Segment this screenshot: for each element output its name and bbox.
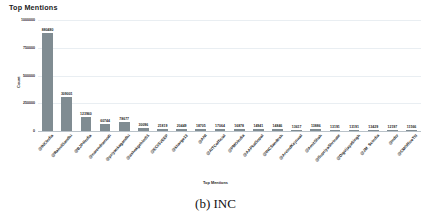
chart-title: Top Mentions	[9, 3, 58, 12]
x-tick-label: @PMOIndia	[227, 133, 246, 153]
bar[interactable]	[291, 130, 302, 132]
y-tick-label: 500000	[23, 74, 35, 78]
x-axis-line	[38, 131, 421, 132]
y-tick-label: 1000000	[21, 18, 35, 22]
bar-slot: 60744	[95, 20, 114, 131]
bar[interactable]	[406, 130, 417, 131]
x-tick-label: @ANI	[196, 133, 207, 145]
bar-value-label: 17064	[215, 124, 225, 128]
bar[interactable]	[61, 97, 72, 131]
bar-slot: 13191	[325, 20, 344, 131]
x-tick-label: @kharge13	[170, 133, 188, 153]
figure-panel: Top Mentions Count 025000050000075000010…	[0, 0, 431, 221]
bar-slot: 17064	[210, 20, 229, 131]
bar-value-label: 13191	[349, 125, 359, 129]
bar-value-label: 12197	[388, 125, 398, 129]
bar-slot: 13191	[345, 20, 364, 131]
bar[interactable]	[138, 128, 149, 131]
bar-slot: 14846	[268, 20, 287, 131]
bar[interactable]	[253, 129, 264, 131]
bar-slot: 13617	[287, 20, 306, 131]
bar[interactable]	[81, 117, 92, 131]
bar[interactable]	[310, 129, 321, 131]
bar-slot: 309001	[57, 20, 76, 131]
plot-area: 02500005000007500001000000 8804803090011…	[38, 20, 421, 132]
bar-slot: 880480	[38, 20, 57, 131]
bar-value-label: 21819	[158, 124, 168, 128]
bar-value-label: 30096	[138, 123, 148, 127]
x-tick-label: @JM_Scindia	[358, 133, 379, 156]
bar-slot: 13429	[364, 20, 383, 131]
bar-slot: 21819	[153, 20, 172, 131]
bar-value-label: 11566	[407, 125, 417, 129]
y-axis-label: Count	[16, 76, 21, 88]
bar[interactable]	[100, 124, 111, 131]
bar-value-label: 20449	[177, 124, 187, 128]
x-tick-label: @INCIndia	[37, 133, 55, 152]
bar[interactable]	[119, 122, 130, 131]
bar[interactable]	[176, 129, 187, 131]
bar-slot: 123960	[76, 20, 95, 131]
bar-value-label: 16878	[234, 124, 244, 128]
bar[interactable]	[387, 130, 398, 131]
bar-value-label: 123960	[80, 112, 92, 116]
bar[interactable]	[234, 129, 245, 131]
bar-value-label: 880480	[42, 28, 54, 32]
x-tick-label: @CMOfficeTN	[396, 133, 418, 157]
bar-value-label: 13617	[292, 125, 302, 129]
bar[interactable]	[272, 129, 283, 131]
bar[interactable]	[349, 130, 360, 131]
x-tick-label: @AITCofficial	[205, 133, 227, 156]
bar-slot: 14941	[249, 20, 268, 131]
bar[interactable]	[42, 33, 53, 131]
bar[interactable]	[330, 130, 341, 131]
bar-slot: 30096	[134, 20, 153, 131]
bar-series: 8804803090011239606074478677300962181920…	[38, 20, 421, 131]
bar-slot: 18705	[191, 20, 210, 131]
y-tick-label: 0	[33, 129, 35, 133]
bar-slot: 12197	[383, 20, 402, 131]
x-tick-label: @AmitShah	[303, 133, 322, 154]
bar-slot: 16878	[230, 20, 249, 131]
bar-slot: 11566	[402, 20, 421, 131]
bar-slot: 20449	[172, 20, 191, 131]
bar-value-label: 18705	[196, 124, 206, 128]
x-tick-label: @ndtv	[387, 133, 399, 146]
x-axis-tick-labels: @INCIndia@RahulGandhi@BJP4India@narendra…	[38, 133, 421, 178]
bar-value-label: 78677	[119, 117, 129, 121]
bar[interactable]	[157, 129, 168, 131]
x-tick-label: @BJP4India	[73, 133, 93, 154]
bar[interactable]	[195, 129, 206, 131]
figure-caption: (b) INC	[0, 196, 431, 212]
bar[interactable]	[368, 130, 379, 131]
bar-slot: 78677	[115, 20, 134, 131]
bar-slot: 13886	[306, 20, 325, 131]
bar-value-label: 14941	[253, 124, 263, 128]
bar[interactable]	[215, 129, 226, 131]
bar-value-label: 60744	[100, 119, 110, 123]
y-tick-label: 750000	[23, 46, 35, 50]
bar-value-label: 309001	[61, 92, 73, 96]
x-axis-label: Top Mentions	[0, 180, 431, 185]
bar-value-label: 13429	[368, 125, 378, 129]
bar-value-label: 13886	[311, 124, 321, 128]
x-tick-label: @ECISVEEP	[149, 133, 169, 155]
bar-value-label: 13191	[330, 125, 340, 129]
y-tick-label: 250000	[23, 101, 35, 105]
bar-value-label: 14846	[273, 124, 283, 128]
